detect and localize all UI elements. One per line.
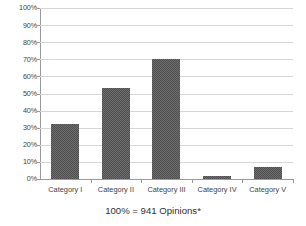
bar-slot: [192, 8, 243, 179]
y-axis-tick-label: 30%: [3, 124, 37, 131]
bar-slot: [242, 8, 293, 179]
chart-caption: 100% = 941 Opinions*: [0, 205, 306, 216]
y-axis-tick-label: 0%: [3, 175, 37, 182]
y-axis-tick-mark: [37, 94, 40, 95]
x-axis-tick-label: Category IV: [192, 185, 243, 195]
x-axis-tick-label: Category III: [141, 185, 192, 195]
x-axis-tick-mark: [192, 180, 193, 183]
y-axis-tick-mark: [37, 111, 40, 112]
y-axis-tick-labels: 0%10%20%30%40%50%60%70%80%90%100%: [0, 8, 37, 179]
y-axis-tick-label: 90%: [3, 22, 37, 29]
bar-slot: [40, 8, 91, 179]
bar[interactable]: [102, 88, 130, 179]
bar[interactable]: [51, 124, 79, 179]
y-axis-tick-label: 60%: [3, 73, 37, 80]
x-axis-tick-mark: [91, 180, 92, 183]
y-axis-tick-mark: [37, 42, 40, 43]
y-axis-tick-label: 100%: [3, 4, 37, 11]
y-axis-tick-mark: [37, 25, 40, 26]
bar-slot: [141, 8, 192, 179]
y-axis-tick-mark: [37, 128, 40, 129]
y-axis-tick-mark: [37, 145, 40, 146]
y-axis-tick-label: 40%: [3, 107, 37, 114]
y-axis-tick-mark: [37, 8, 40, 9]
y-axis-tick-label: 10%: [3, 158, 37, 165]
x-axis-tick-label: Category V: [242, 185, 293, 195]
y-axis-tick-label: 70%: [3, 56, 37, 63]
x-axis-tick-mark: [242, 180, 243, 183]
bar-slot: [91, 8, 142, 179]
x-axis-tick-label: Category I: [40, 185, 91, 195]
y-axis-tick-label: 20%: [3, 141, 37, 148]
x-axis-line: [40, 179, 294, 180]
x-axis-tick-label: Category II: [91, 185, 142, 195]
x-axis-tick-mark: [141, 180, 142, 183]
bar-chart: 0%10%20%30%40%50%60%70%80%90%100% Catego…: [0, 0, 306, 226]
bar[interactable]: [254, 167, 282, 179]
y-axis-tick-mark: [37, 76, 40, 77]
bars-layer: [40, 8, 293, 179]
y-axis-tick-mark: [37, 59, 40, 60]
y-axis-tick-mark: [37, 162, 40, 163]
bar[interactable]: [152, 59, 180, 179]
y-axis-tick-label: 80%: [3, 39, 37, 46]
x-axis-tick-mark: [293, 180, 294, 183]
x-axis-tick-labels: Category ICategory IICategory IIICategor…: [40, 185, 293, 197]
y-axis-tick-label: 50%: [3, 90, 37, 97]
y-axis-tick-mark: [37, 179, 40, 180]
